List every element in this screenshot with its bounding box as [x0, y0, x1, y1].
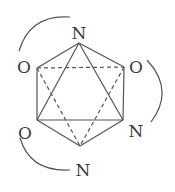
atom-label-lower-left: O — [18, 123, 32, 143]
dashed-edges — [37, 67, 124, 146]
atom-label-top: N — [72, 23, 87, 43]
atom-label-upper-left: O — [17, 57, 31, 77]
atom-label-lower-right: N — [129, 121, 144, 141]
chelate-arcs — [19, 17, 162, 170]
bond-lower-left-bottom — [37, 120, 80, 146]
arc-o-n-top — [19, 17, 70, 51]
bond-upper-right-lower-right — [123, 67, 124, 120]
hidden-edge-upper-right-bottom — [80, 67, 124, 146]
arc-o-n-right — [147, 60, 162, 122]
octahedral-complex-diagram: N O O O N N — [0, 0, 175, 192]
atom-labels: N O O O N N — [17, 23, 144, 180]
solid-edges — [37, 43, 124, 146]
atom-label-bottom: N — [76, 160, 91, 180]
bond-top-lower-left — [37, 43, 79, 120]
bond-lower-right-bottom — [80, 120, 123, 146]
atom-label-upper-right: O — [129, 57, 143, 77]
hidden-edge-upper-left-upper-right — [37, 67, 124, 68]
